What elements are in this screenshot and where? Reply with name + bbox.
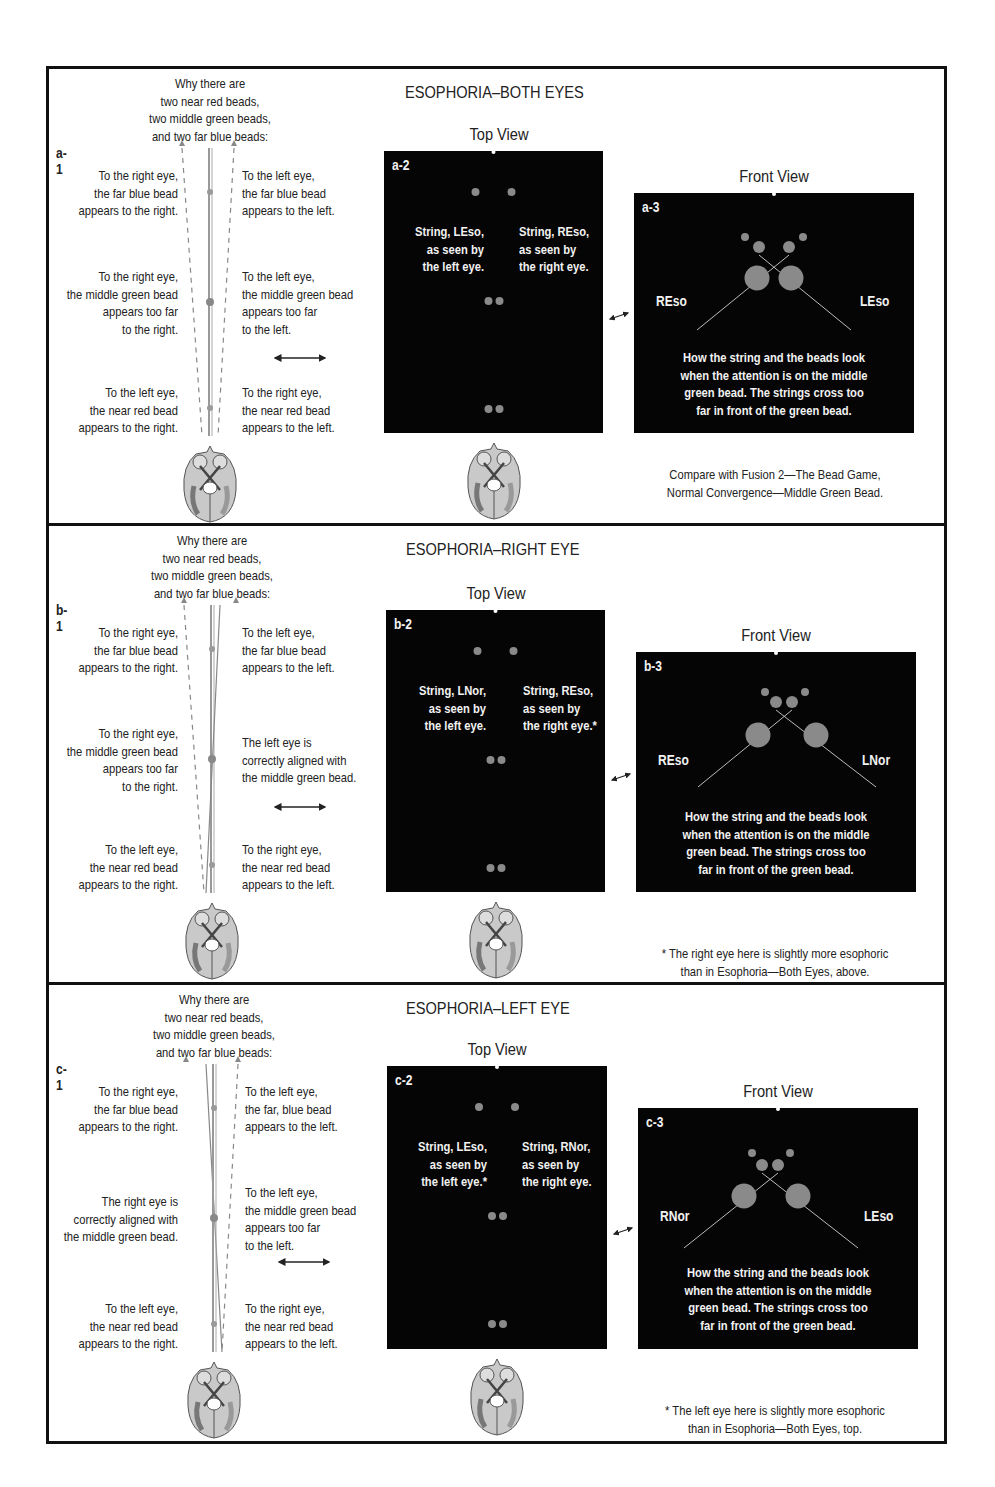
double-arrow-icon [607, 311, 631, 321]
front-view-caption: How the string and the beads lookwhen th… [662, 349, 886, 419]
top-view-box: c-2 String, LEso,as seen bythe left eye.… [387, 1066, 607, 1349]
double-arrow-icon [609, 772, 633, 782]
brain-icon [464, 439, 524, 523]
brain-icon [180, 442, 240, 526]
top-view-beads [387, 1066, 607, 1349]
panel-note: Compare with Fusion 2—The Bead Game,Norm… [642, 466, 909, 501]
panel-note: * The left eye here is slightly more eso… [642, 1402, 909, 1437]
top-view-beads [386, 610, 605, 892]
panel-title: ESOPHORIA–RIGHT EYE [406, 540, 580, 560]
top-view-beads [384, 151, 603, 433]
front-view-box: c-3 RNor LEso How the string and the bea… [638, 1108, 918, 1349]
front-view-heading: Front View [722, 167, 825, 187]
brain-icon [182, 899, 242, 983]
left-string-tag: REso [658, 752, 689, 768]
top-view-box: a-2 String, LEso,as seen bythe left eye.… [384, 151, 603, 433]
right-string-tag: LEso [860, 293, 889, 309]
double-arrow-icon [276, 1257, 332, 1267]
text-line: far in front of the green bead. [662, 402, 886, 420]
double-arrow-icon [611, 1226, 635, 1236]
panel-note: * The right eye here is slightly more es… [642, 945, 909, 980]
brain-icon [184, 1358, 244, 1442]
text-line: green bead. The strings cross too [664, 843, 888, 861]
text-line: when the attention is on the middle [662, 367, 886, 385]
sight-lines-diagram [0, 66, 400, 446]
text-line: green bead. The strings cross too [662, 384, 886, 402]
double-arrow-icon [272, 353, 328, 363]
text-line: How the string and the beads look [666, 1264, 890, 1282]
brain-icon [466, 898, 526, 982]
front-view-caption: How the string and the beads lookwhen th… [664, 808, 888, 878]
text-line: than in Esophoria—Both Eyes, top. [642, 1420, 909, 1438]
text-line: How the string and the beads look [662, 349, 886, 367]
text-line: than in Esophoria—Both Eyes, above. [642, 963, 909, 981]
panel-title: ESOPHORIA–BOTH EYES [405, 83, 584, 103]
left-string-tag: RNor [660, 1208, 689, 1224]
front-view-box: a-3 REso LEso How the string and the bea… [634, 193, 914, 433]
right-string-tag: LNor [862, 752, 890, 768]
text-line: green bead. The strings cross too [666, 1299, 890, 1317]
front-view-heading: Front View [724, 626, 827, 646]
front-view-box: b-3 REso LNor How the string and the bea… [636, 652, 916, 892]
left-string-tag: REso [656, 293, 687, 309]
top-view-heading: Top View [445, 1040, 548, 1060]
double-arrow-icon [272, 802, 328, 812]
text-line: when the attention is on the middle [666, 1282, 890, 1300]
text-line: How the string and the beads look [664, 808, 888, 826]
front-view-heading: Front View [726, 1082, 829, 1102]
text-line: * The right eye here is slightly more es… [642, 945, 909, 963]
text-line: Compare with Fusion 2—The Bead Game, [642, 466, 909, 484]
text-line: far in front of the green bead. [666, 1317, 890, 1335]
top-view-heading: Top View [444, 584, 547, 604]
brain-icon [467, 1355, 527, 1439]
text-line: * The left eye here is slightly more eso… [642, 1402, 909, 1420]
right-string-tag: LEso [864, 1208, 893, 1224]
text-line: when the attention is on the middle [664, 826, 888, 844]
top-view-box: b-2 String, LNor,as seen bythe left eye.… [386, 610, 605, 892]
text-line: far in front of the green bead. [664, 861, 888, 879]
text-line: Normal Convergence—Middle Green Bead. [642, 484, 909, 502]
panel-title: ESOPHORIA–LEFT EYE [406, 999, 570, 1019]
front-view-caption: How the string and the beads lookwhen th… [666, 1264, 890, 1334]
sight-lines-diagram [0, 523, 400, 903]
sight-lines-diagram [0, 982, 400, 1362]
top-view-heading: Top View [443, 125, 555, 145]
